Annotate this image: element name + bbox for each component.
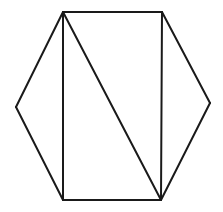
- edge-rect-right: [161, 12, 162, 200]
- edge-hex-upper-left: [16, 12, 63, 107]
- edge-diagonal: [63, 12, 161, 200]
- edge-hex-lower-left: [16, 107, 63, 200]
- hexagon-diagram: [0, 0, 223, 212]
- edge-hex-upper-right: [162, 12, 210, 103]
- edge-hex-lower-right: [161, 103, 210, 200]
